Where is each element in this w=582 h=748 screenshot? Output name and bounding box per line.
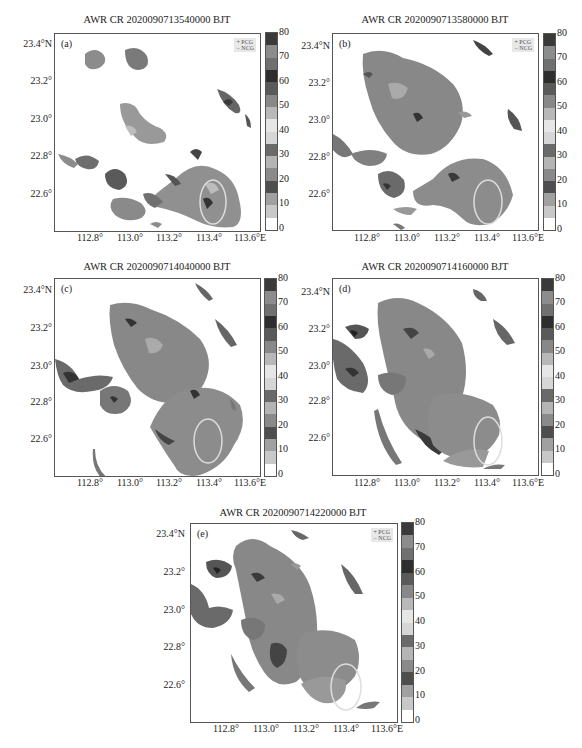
y-tick: 22.8° [290,151,330,162]
colorbar-tick: 80 [278,272,288,283]
colorbar-tick: 80 [415,516,425,527]
x-tick: 112.8° [345,232,389,243]
colorbar-band [265,341,276,353]
lightning-legend: + PCG− NCG [234,38,256,52]
colorbar-tick: 10 [278,443,288,454]
colorbar-band [266,132,277,144]
colorbar-band [542,353,553,365]
colorbar [265,32,278,231]
colorbar-band [402,660,413,672]
colorbar-tick: 50 [278,345,288,356]
colorbar-band [266,95,277,107]
colorbar-band [542,304,553,316]
colorbar [401,522,414,723]
colorbar-band [544,83,555,95]
colorbar-band [266,119,277,131]
colorbar-band [402,585,413,597]
colorbar-tick: 70 [279,50,289,61]
colorbar-band [265,291,276,303]
colorbar-tick: 50 [555,345,565,356]
y-tick: 22.8° [12,150,52,161]
panel-e: AWR CR 2020090714220000 BJT [140,490,440,748]
colorbar-tick: 70 [278,296,288,307]
x-tick: 113.4° [187,477,231,488]
x-tick: 113.0° [385,232,429,243]
colorbar-tick: 20 [279,173,289,184]
colorbar [543,33,556,231]
colorbar-band [402,635,413,647]
colorbar-tick: 0 [279,222,284,233]
colorbar-band [266,70,277,82]
colorbar-band [266,107,277,119]
colorbar-band [266,33,277,45]
colorbar-tick: 30 [279,148,289,159]
colorbar-band [542,279,553,291]
colorbar-tick: 60 [279,75,289,86]
colorbar-band [544,108,555,120]
y-tick: 22.8° [12,396,52,407]
panel-title: AWR CR 2020090714220000 BJT [190,507,396,518]
colorbar [264,278,277,477]
reflectivity-field [333,34,538,230]
colorbar-tick: 20 [555,419,565,430]
x-tick: 112.8° [68,232,112,243]
panel-a: AWR CR 2020090713540000 BJT [0,0,291,250]
colorbar-band [265,365,276,377]
colorbar-tick: 10 [415,689,425,700]
legend-ncg: − NCG [373,535,391,541]
y-tick: 23.4°N [290,286,330,297]
x-tick: 113.0° [244,723,288,734]
y-tick: 22.8° [290,395,330,406]
colorbar-tick: 60 [555,321,565,332]
colorbar-band [542,426,553,438]
colorbar-band [266,82,277,94]
radar-map: (b) + PCG− NCG [332,33,539,231]
y-tick: 22.6° [12,188,52,199]
colorbar-band [542,316,553,328]
colorbar-band [542,463,553,475]
colorbar-tick: 30 [415,640,425,651]
colorbar-tick: 0 [555,468,560,479]
x-tick: 112.8° [345,477,389,488]
colorbar-tick: 60 [415,566,425,577]
colorbar-band [402,623,413,635]
reflectivity-field [55,34,260,231]
x-tick: 113.2° [147,232,191,243]
colorbar-band [544,120,555,132]
colorbar-band [266,181,277,193]
lightning-legend: + PCG− NCG [371,528,393,542]
colorbar-tick: 20 [415,665,425,676]
panel-title: AWR CR 2020090713580000 BJT [332,14,538,25]
colorbar-band [402,560,413,572]
colorbar-band [402,523,413,535]
colorbar-tick: 40 [415,615,425,626]
x-tick: 112.8° [68,477,112,488]
panel-label: (b) [339,38,351,49]
colorbar-band [265,439,276,451]
colorbar-tick: 80 [279,26,289,37]
colorbar-band [542,414,553,426]
colorbar-tick: 40 [555,370,565,381]
colorbar-tick: 0 [415,714,420,725]
panel-title: AWR CR 2020090714160000 BJT [332,261,538,272]
colorbar-band [266,156,277,168]
y-tick: 23.2° [12,322,52,333]
colorbar-band [542,365,553,377]
panel-d: AWR CR 2020090714160000 BJT [291,250,582,490]
colorbar-band [265,390,276,402]
panel-title: AWR CR 2020090714040000 BJT [54,261,260,272]
y-tick: 22.6° [290,432,330,443]
colorbar-band [266,168,277,180]
y-tick: 23.4°N [12,38,52,49]
colorbar-band [265,378,276,390]
colorbar-tick: 10 [555,443,565,454]
colorbar-tick: 50 [557,100,567,111]
x-tick: 113.4° [465,477,509,488]
colorbar-tick: 80 [557,27,567,38]
x-tick: 113.2° [147,477,191,488]
colorbar-band [266,193,277,205]
colorbar-band [544,218,555,230]
x-tick: 113.0° [385,477,429,488]
colorbar-band [402,548,413,560]
colorbar-band [542,438,553,450]
